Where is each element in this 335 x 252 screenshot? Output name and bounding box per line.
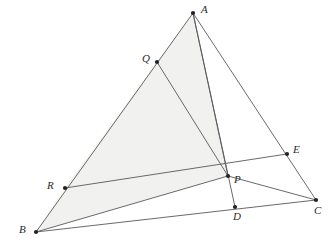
vertex-dot-b [34, 230, 38, 234]
point-label-r: R [47, 180, 54, 191]
geometry-canvas [0, 0, 335, 252]
point-label-d: D [233, 211, 241, 222]
point-label-a: A [201, 4, 208, 15]
vertex-dot-r [63, 186, 67, 190]
point-label-e: E [293, 144, 300, 155]
point-label-q: Q [142, 53, 150, 64]
vertex-dot-q [155, 60, 159, 64]
vertex-dot-a [191, 11, 195, 15]
point-label-p: P [234, 174, 241, 185]
shaded-region [36, 13, 228, 232]
vertex-dot-e [285, 152, 289, 156]
vertex-dot-p [226, 174, 230, 178]
vertex-dot-d [233, 205, 237, 209]
point-label-c: C [314, 205, 321, 216]
vertex-dot-c [314, 198, 318, 202]
geometry-figure: AQRBPDCE [0, 0, 335, 252]
point-label-b: B [19, 224, 26, 235]
